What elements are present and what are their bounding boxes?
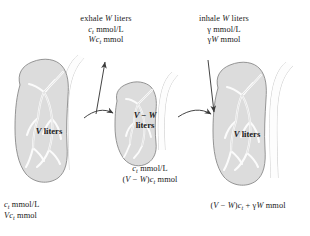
right-w: W [228,201,235,210]
lung-label-middle: V − W liters [118,111,172,131]
lung-left [15,55,84,182]
inhale-line2-post: mmol/L [211,25,241,34]
left-line2-post: mmol [15,211,37,220]
left-line1-sub: t [8,203,10,210]
right-c: c [238,201,242,210]
exhale-caption: exhale W liters ct mmol/L Wct mmol [58,14,154,46]
right-minus: − [219,201,228,210]
lung-ventilation-diagram: exhale W liters ct mmol/L Wct mmol inhal… [0,0,310,236]
left-line1-post: mmol/L [10,200,40,209]
left-caption: ct mmol/L Vct mmol [4,200,88,221]
lung-label-right-unit: liters [239,129,260,139]
lung-label-left: V liters [18,127,80,137]
inhale-caption-line1: inhale W liters [176,14,272,25]
left-line2-var: Vc [4,211,13,220]
exhale-line2-post: mmol/L [94,25,124,34]
lung-label-middle-w: W [149,110,157,120]
exhale-caption-line3: Wct mmol [58,35,154,46]
right-unit: mmol [263,201,285,210]
right-plus: + [243,201,252,210]
middle-line2-c: c [150,175,154,184]
middle-line2-minus: − [131,175,140,184]
right-caption-line1: (V − W)ct + γW mmol [188,201,308,212]
exhale-line3-post: mmol [101,35,123,44]
inhale-line1-post: liters [229,14,249,23]
lung-right [213,62,293,185]
lung-label-middle-minus: − [139,110,148,120]
lung-label-middle-line2: liters [118,121,172,131]
inhale-caption-line2: γ mmol/L [176,25,272,36]
left-caption-line1: ct mmol/L [4,200,88,211]
exhale-line3-var: Wc [89,35,100,44]
inhale-line3-post: mmol [218,35,240,44]
right-caption: (V − W)ct + γW mmol [188,201,308,212]
middle-caption-line1: ct mmol/L [92,164,208,175]
middle-line2-w: W [140,175,147,184]
exhale-caption-line1: exhale W liters [58,14,154,25]
middle-line1-post: mmol/L [138,164,168,173]
middle-line2-post: mmol [155,175,177,184]
transition-arrow-middle-to-right [178,110,211,117]
middle-caption-line2: (V − W)ct mmol [92,175,208,186]
inhale-caption: inhale W liters γ mmol/L γW mmol [176,14,272,46]
transition-arrow-left-to-middle [84,110,113,118]
exhale-line2-sub: t [92,28,94,35]
exhale-line1-post: liters [112,14,132,23]
lung-label-right: V liters [216,130,278,140]
exhale-line1-pre: exhale [80,14,105,23]
middle-line1-sub: t [136,167,138,174]
exhale-arrow-up [96,62,105,114]
left-line2-sub: t [13,214,15,221]
exhale-caption-line2: ct mmol/L [58,25,154,36]
left-caption-line2: Vct mmol [4,211,88,222]
inhale-arrow-down [208,60,214,112]
inhale-line1-pre: inhale [199,14,222,23]
trachea-right [270,62,293,178]
inhale-caption-line3: γW mmol [176,35,272,46]
lung-label-left-unit: liters [41,126,62,136]
middle-caption: ct mmol/L (V − W)ct mmol [92,164,208,185]
